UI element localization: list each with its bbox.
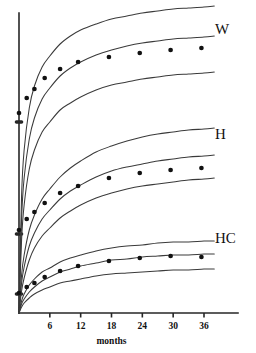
dot-W-6 xyxy=(107,55,112,60)
x-tick-label-12: 12 xyxy=(76,321,86,331)
dot-H-7 xyxy=(137,171,142,176)
dot-W-8 xyxy=(168,48,173,53)
dot-H-5 xyxy=(76,184,81,189)
data-points-layer xyxy=(17,46,204,296)
dot-HC-1 xyxy=(24,285,29,290)
curve-W-median xyxy=(19,36,214,313)
curve-W-lower xyxy=(19,72,214,313)
curve-W-upper xyxy=(19,6,214,313)
dot-W-2 xyxy=(32,87,37,92)
dot-H-2 xyxy=(32,210,37,215)
dot-H-6 xyxy=(107,176,112,181)
dot-H-1 xyxy=(24,217,29,222)
curve-H-median xyxy=(19,155,214,313)
dot-HC-7 xyxy=(137,256,142,261)
curve-H-upper xyxy=(19,128,214,313)
x-tick-label-6: 6 xyxy=(47,321,52,331)
dot-HC-0 xyxy=(17,291,22,296)
dot-HC-8 xyxy=(168,254,173,259)
dot-W-4 xyxy=(58,67,63,72)
dot-W-1 xyxy=(24,96,29,101)
x-tick-labels: 61218243036 xyxy=(47,321,209,331)
series-label-HC: HC xyxy=(215,230,236,246)
dot-H-4 xyxy=(58,191,63,196)
dot-H-3 xyxy=(42,201,47,206)
growth-chart-svg: 61218243036 WHHC months xyxy=(0,0,256,353)
dot-H-9 xyxy=(199,166,204,171)
dot-HC-4 xyxy=(58,269,63,274)
dot-H-0 xyxy=(17,228,22,233)
series-label-W: W xyxy=(215,21,230,37)
dot-W-9 xyxy=(199,46,204,51)
dot-HC-3 xyxy=(42,275,47,280)
dot-H-8 xyxy=(168,168,173,173)
x-axis-title: months xyxy=(96,336,126,346)
dot-HC-9 xyxy=(199,255,204,260)
dot-HC-6 xyxy=(107,259,112,264)
dot-HC-5 xyxy=(76,264,81,269)
curve-HC-upper xyxy=(19,241,214,313)
curve-H-lower xyxy=(19,178,214,313)
curve-HC-median xyxy=(19,254,214,313)
x-tick-label-18: 18 xyxy=(107,321,117,331)
reference-curves-layer xyxy=(19,6,214,313)
growth-chart-figure: 61218243036 WHHC months xyxy=(0,0,256,353)
dot-W-5 xyxy=(76,60,81,65)
x-tick-label-24: 24 xyxy=(138,321,148,331)
dot-W-3 xyxy=(42,76,47,81)
x-tick-label-36: 36 xyxy=(199,321,209,331)
series-label-H: H xyxy=(215,126,226,142)
dot-W-7 xyxy=(137,51,142,56)
curve-HC-lower xyxy=(19,269,214,313)
x-tick-label-30: 30 xyxy=(168,321,178,331)
series-labels: WHHC xyxy=(215,21,236,246)
dot-W-0 xyxy=(17,111,22,116)
dot-HC-2 xyxy=(32,281,37,286)
axes-group xyxy=(16,13,238,318)
